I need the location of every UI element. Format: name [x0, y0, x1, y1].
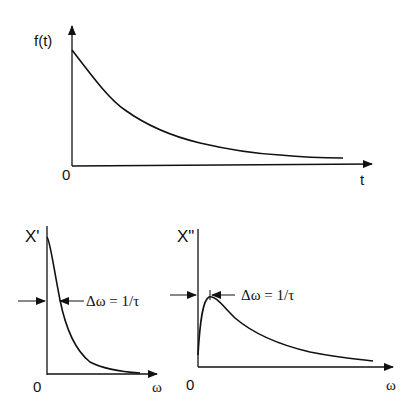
diagram: f(t) 0 t X' Δω = 1/τ 0 ω X" Δω = 1/τ 0 ω — [0, 0, 417, 409]
right-xlabel: ω — [386, 377, 396, 393]
left-annotation: Δω = 1/τ — [86, 293, 139, 309]
top-origin: 0 — [62, 166, 70, 183]
top-xlabel: t — [360, 171, 365, 188]
right-ylabel: X" — [177, 227, 194, 246]
right-origin: 0 — [186, 376, 194, 393]
top-x-axis — [72, 164, 372, 166]
bottom-left-plot: X' Δω = 1/τ 0 ω — [18, 226, 162, 395]
decay-curve — [72, 50, 343, 158]
left-origin: 0 — [33, 378, 41, 395]
right-annotation: Δω = 1/τ — [241, 287, 294, 303]
top-plot: f(t) 0 t — [34, 26, 372, 188]
left-ylabel: X' — [25, 227, 40, 246]
top-ylabel: f(t) — [34, 32, 52, 49]
left-xlabel: ω — [152, 379, 162, 395]
xdoubleprime-curve — [198, 297, 373, 361]
bottom-right-plot: X" Δω = 1/τ 0 ω — [170, 227, 396, 393]
